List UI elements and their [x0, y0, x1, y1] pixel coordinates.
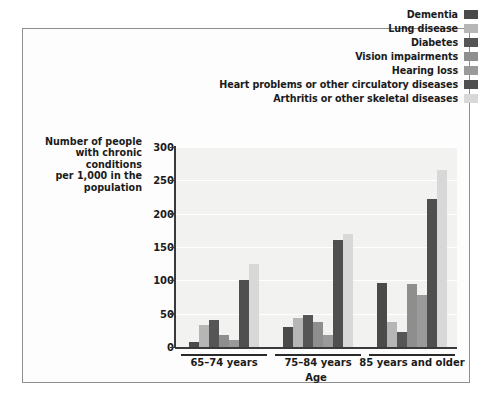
legend-label: Vision impairments: [355, 51, 458, 62]
legend-label: Hearing loss: [392, 65, 458, 76]
y-axis-title-line: Number of people: [44, 136, 142, 147]
legend-label: Heart problems or other circulatory dise…: [219, 79, 458, 90]
x-group-rule: [275, 354, 361, 356]
y-tick-mark: [170, 213, 174, 215]
x-group-label: 85 years and older: [352, 357, 472, 368]
bar: [199, 325, 209, 347]
bar: [437, 170, 447, 347]
x-axis-title: Age: [175, 372, 457, 383]
legend-label: Dementia: [407, 9, 458, 20]
bar: [313, 322, 323, 347]
legend-swatch: [464, 80, 478, 89]
legend-label: Lung disease: [388, 23, 458, 34]
y-axis-ticks: 050100150200250300: [130, 147, 174, 347]
y-tick-label: 0: [138, 342, 174, 353]
bar: [323, 335, 333, 347]
bar: [333, 240, 343, 347]
legend-item: Vision impairments: [355, 50, 478, 63]
y-tick-mark: [170, 147, 174, 149]
legend-item: Dementia: [407, 8, 478, 21]
y-axis-title: Number of peoplewith chronic conditionsp…: [44, 136, 142, 193]
y-tick-mark: [170, 180, 174, 182]
chart-figure: DementiaLung diseaseDiabetesVision impai…: [0, 0, 492, 417]
plot-area: [175, 147, 457, 347]
legend-swatch: [464, 10, 478, 19]
legend-item: Heart problems or other circulatory dise…: [219, 78, 478, 91]
bar-group: [283, 147, 353, 347]
x-axis-line: [175, 347, 457, 349]
y-tick-label: 50: [138, 308, 174, 319]
bar: [417, 295, 427, 347]
bar: [209, 320, 219, 347]
y-tick-mark: [170, 280, 174, 282]
legend-item: Diabetes: [411, 36, 478, 49]
legend-swatch: [464, 94, 478, 103]
bar: [407, 284, 417, 347]
y-axis-title-line: per 1,000 in the: [44, 170, 142, 181]
bar: [293, 318, 303, 347]
legend-label: Diabetes: [411, 37, 458, 48]
legend-swatch: [464, 66, 478, 75]
x-group-rule: [181, 354, 267, 356]
legend-label: Arthritis or other skeletal diseases: [273, 93, 458, 104]
legend-swatch: [464, 52, 478, 61]
bar: [397, 332, 407, 347]
y-tick-mark: [170, 313, 174, 315]
bar-group: [377, 147, 447, 347]
bar: [303, 315, 313, 347]
y-tick-label: 200: [138, 208, 174, 219]
chart-legend: DementiaLung diseaseDiabetesVision impai…: [98, 8, 478, 105]
y-tick-label: 100: [138, 275, 174, 286]
legend-item: Arthritis or other skeletal diseases: [273, 92, 478, 105]
y-tick-label: 150: [138, 242, 174, 253]
bar: [387, 322, 397, 347]
bar: [343, 234, 353, 347]
y-axis-title-line: with chronic conditions: [44, 147, 142, 170]
bar: [239, 280, 249, 347]
legend-swatch: [464, 38, 478, 47]
bar: [427, 199, 437, 347]
legend-swatch: [464, 24, 478, 33]
y-tick-label: 300: [138, 142, 174, 153]
y-axis-line: [174, 146, 176, 348]
bar: [377, 283, 387, 347]
bar: [283, 327, 293, 347]
bar: [249, 264, 259, 347]
bar: [219, 335, 229, 347]
legend-item: Lung disease: [388, 22, 478, 35]
legend-item: Hearing loss: [392, 64, 478, 77]
y-tick-mark: [170, 347, 174, 349]
y-tick-mark: [170, 247, 174, 249]
y-tick-label: 250: [138, 175, 174, 186]
y-axis-title-line: population: [44, 182, 142, 193]
bar: [229, 340, 239, 347]
x-group-rule: [369, 354, 455, 356]
bar-group: [189, 147, 259, 347]
